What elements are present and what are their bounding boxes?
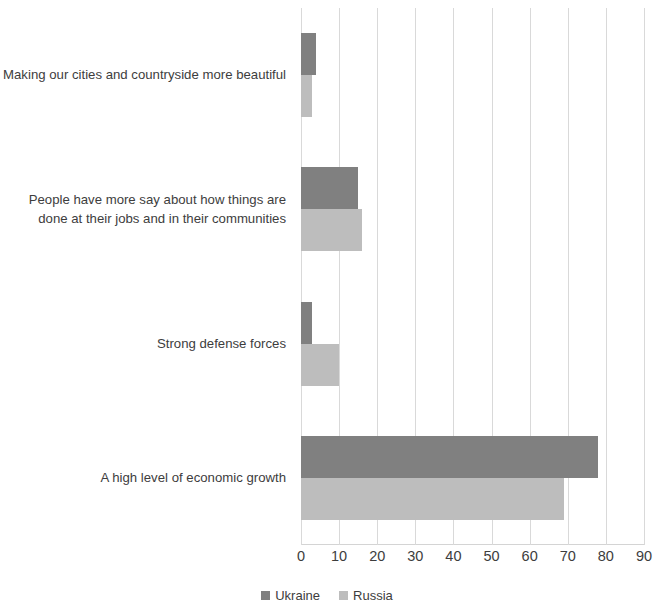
x-tick-label-30: 30 bbox=[407, 548, 423, 564]
bar-russia[interactable] bbox=[301, 344, 339, 386]
x-tick-label-80: 80 bbox=[598, 548, 614, 564]
x-tick-label-90: 90 bbox=[636, 548, 652, 564]
x-tick-label-60: 60 bbox=[522, 548, 538, 564]
category-axis-labels: Making our cities and countryside more b… bbox=[0, 8, 292, 545]
bar-russia[interactable] bbox=[301, 209, 362, 251]
bar-ukraine[interactable] bbox=[301, 33, 316, 75]
x-tick-label-20: 20 bbox=[369, 548, 385, 564]
category-label: Making our cities and countryside more b… bbox=[0, 8, 286, 142]
x-tick-label-10: 10 bbox=[331, 548, 347, 564]
gridline-90 bbox=[644, 8, 645, 545]
category-label-text: Strong defense forces bbox=[157, 334, 286, 354]
bar-group bbox=[301, 167, 644, 251]
legend-swatch-icon bbox=[261, 591, 270, 600]
bar-russia[interactable] bbox=[301, 75, 312, 117]
category-label-text: Making our cities and countryside more b… bbox=[3, 65, 286, 85]
legend-swatch-icon bbox=[339, 591, 348, 600]
bar-russia[interactable] bbox=[301, 478, 564, 520]
bar-ukraine[interactable] bbox=[301, 302, 312, 344]
category-label-text: A high level of economic growth bbox=[101, 468, 286, 488]
bar-ukraine[interactable] bbox=[301, 167, 358, 209]
x-tick-label-50: 50 bbox=[483, 548, 499, 564]
x-tick-label-70: 70 bbox=[560, 548, 576, 564]
legend-item-ukraine[interactable]: Ukraine bbox=[261, 589, 320, 602]
bar-group bbox=[301, 436, 644, 520]
plot-area bbox=[301, 8, 644, 545]
bar-group bbox=[301, 33, 644, 117]
category-label: A high level of economic growth bbox=[0, 411, 286, 545]
legend-label: Russia bbox=[353, 589, 393, 602]
legend-item-russia[interactable]: Russia bbox=[339, 589, 393, 602]
category-label-text: People have more say about how things ar… bbox=[0, 190, 286, 229]
chart-legend: UkraineRussia bbox=[0, 589, 654, 602]
category-label: Strong defense forces bbox=[0, 277, 286, 411]
bar-chart: Making our cities and countryside more b… bbox=[0, 0, 654, 614]
category-label: People have more say about how things ar… bbox=[0, 142, 286, 276]
bar-group bbox=[301, 302, 644, 386]
x-tick-label-0: 0 bbox=[297, 548, 305, 564]
bar-ukraine[interactable] bbox=[301, 436, 598, 478]
legend-label: Ukraine bbox=[275, 589, 320, 602]
x-axis: 0102030405060708090 bbox=[301, 548, 644, 570]
x-tick-label-40: 40 bbox=[445, 548, 461, 564]
